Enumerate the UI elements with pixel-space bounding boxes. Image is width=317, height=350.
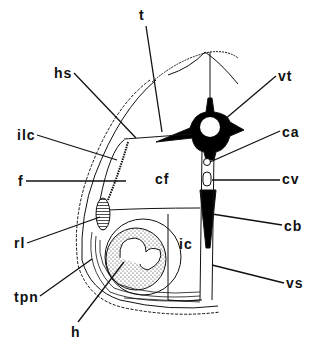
label-hs: hs <box>54 66 72 80</box>
label-vt: vt <box>278 69 292 83</box>
ca-circle <box>204 159 211 166</box>
label-tpn: tpn <box>14 290 39 304</box>
label-rl: rl <box>14 236 25 250</box>
cv-oval <box>203 172 211 186</box>
label-t: t <box>139 8 145 22</box>
heart <box>105 219 181 295</box>
label-cv: cv <box>282 172 300 186</box>
label-ilc: ilc <box>17 128 36 142</box>
label-ca: ca <box>282 125 300 139</box>
label-cf: cf <box>155 172 169 186</box>
label-h: h <box>71 325 81 339</box>
label-ic: ic <box>179 237 193 251</box>
label-f: f <box>18 174 24 188</box>
label-vs: vs <box>286 276 304 290</box>
rl-region <box>96 198 110 230</box>
label-cb: cb <box>284 219 302 233</box>
